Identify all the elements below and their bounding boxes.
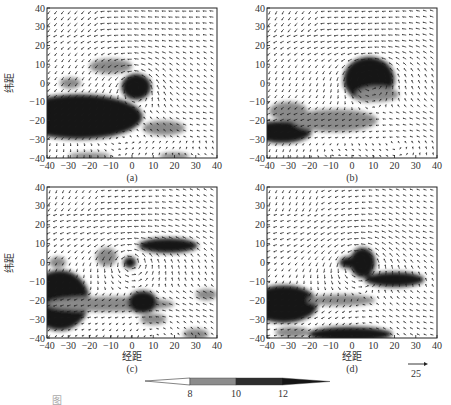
y-tick-label: −10 bbox=[29, 96, 45, 107]
panel-c: −40−30−20−10010203040403020100−10−20−30−… bbox=[3, 182, 222, 376]
figure-caption: 图 bbox=[52, 395, 62, 405]
x-tick-label: 20 bbox=[170, 340, 180, 351]
shaded-region bbox=[276, 327, 310, 338]
x-tick-label: 20 bbox=[390, 340, 400, 351]
reference-arrowhead-icon bbox=[424, 362, 428, 366]
x-tick-label: −30 bbox=[60, 340, 76, 351]
x-tick-label: −10 bbox=[103, 160, 119, 171]
x-tick-label: −20 bbox=[82, 340, 98, 351]
shaded-region bbox=[339, 257, 356, 268]
x-tick-label: 0 bbox=[350, 160, 355, 171]
y-tick-label: 20 bbox=[255, 219, 265, 230]
y-tick-label: −30 bbox=[249, 134, 265, 145]
y-tick-label: −40 bbox=[249, 153, 265, 164]
y-tick-label: −30 bbox=[29, 314, 45, 325]
y-tick-label: 20 bbox=[255, 40, 265, 51]
y-tick-label: 10 bbox=[255, 238, 265, 249]
x-tick-label: 40 bbox=[212, 340, 222, 351]
x-tick-label: −20 bbox=[82, 160, 98, 171]
shaded-region bbox=[49, 257, 66, 268]
x-tick-label: 10 bbox=[368, 340, 378, 351]
x-tick-label: 40 bbox=[212, 160, 222, 171]
y-tick-label: −10 bbox=[249, 276, 265, 287]
y-axis-label: 纬距 bbox=[3, 253, 15, 273]
x-tick-label: 0 bbox=[130, 340, 135, 351]
shaded-region bbox=[307, 295, 375, 306]
x-tick-label: 10 bbox=[368, 160, 378, 171]
x-tick-label: 30 bbox=[411, 160, 421, 171]
y-tick-label: −20 bbox=[249, 115, 265, 126]
x-tick-label: 0 bbox=[350, 340, 355, 351]
panel-label-d: (d) bbox=[346, 363, 358, 375]
x-tick-label: 30 bbox=[191, 340, 201, 351]
x-tick-label: −20 bbox=[302, 160, 318, 171]
y-tick-label: 0 bbox=[40, 78, 45, 89]
x-tick-label: 30 bbox=[411, 340, 421, 351]
x-tick-label: 10 bbox=[148, 340, 158, 351]
x-tick-label: −30 bbox=[280, 160, 296, 171]
y-tick-label: 30 bbox=[35, 21, 45, 32]
x-tick-label: 40 bbox=[432, 340, 442, 351]
panel-d: −40−30−20−10010203040403020100−10−20−30−… bbox=[249, 182, 442, 376]
colorbar-high-extension bbox=[282, 378, 330, 385]
y-tick-label: 10 bbox=[255, 59, 265, 70]
shaded-region bbox=[138, 238, 198, 253]
x-axis-label: 经距 bbox=[342, 350, 362, 362]
panel-label-a: (a) bbox=[126, 172, 137, 184]
colorbar-tick-12: 12 bbox=[278, 388, 288, 399]
colorbar-low-extension bbox=[145, 378, 190, 385]
reference-vector: 25 bbox=[408, 362, 428, 379]
shaded-region bbox=[124, 257, 137, 268]
panel-b: −40−30−20−10010203040403020100−10−20−30−… bbox=[249, 3, 442, 185]
panel-label-c: (c) bbox=[126, 363, 137, 375]
y-tick-label: 40 bbox=[35, 3, 45, 14]
x-tick-label: 10 bbox=[148, 160, 158, 171]
y-axis-label: 纬距 bbox=[3, 73, 15, 93]
reference-vector-label: 25 bbox=[411, 368, 421, 379]
x-tick-label: 20 bbox=[170, 160, 180, 171]
y-tick-label: −10 bbox=[29, 276, 45, 287]
y-tick-label: 10 bbox=[35, 238, 45, 249]
y-tick-label: 30 bbox=[255, 200, 265, 211]
x-tick-label: 0 bbox=[130, 160, 135, 171]
shaded-region bbox=[143, 121, 186, 136]
y-tick-label: −10 bbox=[249, 96, 265, 107]
panels-group: −40−30−20−10010203040403020100−10−20−30−… bbox=[3, 3, 442, 376]
y-tick-label: 10 bbox=[35, 59, 45, 70]
y-tick-label: 20 bbox=[35, 40, 45, 51]
colorbar-tick-8: 8 bbox=[188, 388, 193, 399]
x-tick-label: 30 bbox=[191, 160, 201, 171]
colorbar-segment-8-10 bbox=[190, 378, 236, 385]
y-tick-label: −40 bbox=[249, 333, 265, 344]
y-tick-label: 40 bbox=[255, 3, 265, 14]
x-tick-label: −10 bbox=[323, 340, 339, 351]
x-tick-label: −30 bbox=[60, 160, 76, 171]
y-tick-label: −30 bbox=[29, 134, 45, 145]
y-tick-label: −40 bbox=[29, 153, 45, 164]
panel-a: −40−30−20−10010203040403020100−10−20−30−… bbox=[3, 3, 222, 185]
x-tick-label: −20 bbox=[302, 340, 318, 351]
y-tick-label: 0 bbox=[40, 257, 45, 268]
shaded-region bbox=[344, 81, 357, 89]
colorbar-segment-10-12 bbox=[236, 378, 282, 385]
colorbar-tick-10: 10 bbox=[231, 388, 241, 399]
x-tick-label: −10 bbox=[323, 160, 339, 171]
y-tick-label: −20 bbox=[29, 295, 45, 306]
colorbar: 8 10 12 bbox=[145, 378, 330, 399]
x-axis-label: 经距 bbox=[122, 350, 142, 362]
y-tick-label: 40 bbox=[35, 182, 45, 193]
panel-label-b: (b) bbox=[346, 172, 358, 184]
figure-canvas: −40−30−20−10010203040403020100−10−20−30−… bbox=[0, 0, 451, 405]
x-tick-label: −30 bbox=[280, 340, 296, 351]
shaded-region bbox=[269, 102, 307, 121]
shaded-region bbox=[128, 291, 158, 314]
y-tick-label: 30 bbox=[35, 200, 45, 211]
y-tick-label: −40 bbox=[29, 333, 45, 344]
y-tick-label: 0 bbox=[260, 78, 265, 89]
y-tick-label: −30 bbox=[249, 314, 265, 325]
y-tick-label: 40 bbox=[255, 182, 265, 193]
y-tick-label: 0 bbox=[260, 257, 265, 268]
shaded-region bbox=[121, 74, 151, 100]
y-tick-label: −20 bbox=[29, 115, 45, 126]
shaded-region bbox=[96, 247, 117, 266]
